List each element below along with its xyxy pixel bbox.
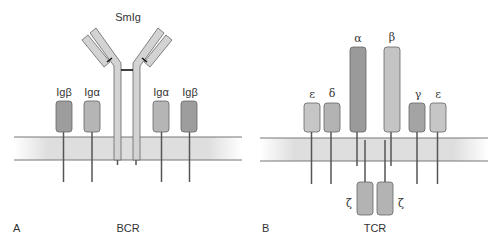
epsilon-label-left: ε — [309, 89, 315, 100]
zeta-label-right: ζ — [398, 198, 404, 209]
tcr-title: TCR — [364, 223, 387, 234]
zeta-label-left: ζ — [346, 198, 352, 209]
beta-label: β — [389, 32, 395, 43]
receptor-diagram — [0, 0, 501, 248]
ig-alpha-label-right: Igα — [153, 87, 169, 98]
tcr-membrane — [260, 138, 488, 161]
bcr-membrane — [14, 137, 242, 160]
ig-beta-label-right: Igβ — [182, 87, 198, 98]
delta-label: δ — [329, 88, 336, 99]
alpha-label: α — [354, 33, 361, 44]
bcr-title: BCR — [116, 223, 139, 234]
panel-a-letter: A — [13, 223, 20, 234]
ig-beta-label-left: Igβ — [56, 87, 72, 98]
epsilon-label-right: ε — [435, 89, 441, 100]
gamma-label: γ — [415, 89, 422, 100]
panel-b-letter: B — [262, 223, 269, 234]
smig-label: SmIg — [115, 12, 141, 23]
ig-alpha-label-left: Igα — [84, 87, 100, 98]
